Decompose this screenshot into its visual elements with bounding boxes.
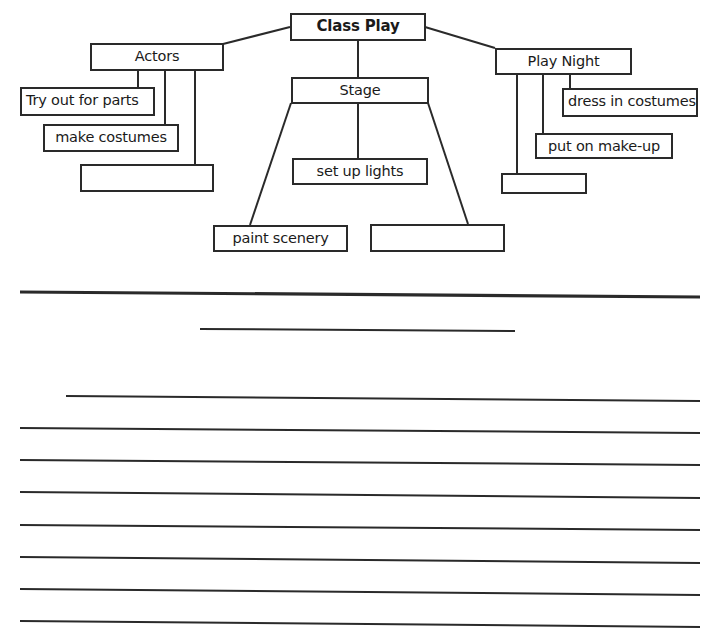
writing-lines [20, 292, 700, 627]
node-make-costumes: make costumes [43, 124, 179, 152]
connector-root-actors [223, 27, 290, 44]
writing-line-5 [20, 525, 700, 530]
node-stage-blank-answer[interactable] [370, 224, 505, 252]
connector-stage-scenery [250, 103, 291, 225]
writing-line-4 [20, 492, 700, 498]
node-label: Stage [340, 82, 381, 98]
node-put-on-make-up: put on make-up [535, 133, 673, 159]
node-play-night: Play Night [495, 48, 632, 75]
node-label: Class Play [317, 17, 400, 35]
worksheet-page: Class Play Actors Try out for parts make… [0, 0, 718, 642]
node-label: make costumes [55, 129, 167, 145]
node-dress-in-costumes: dress in costumes [562, 88, 698, 117]
writing-line-3 [20, 460, 700, 465]
node-paint-scenery: paint scenery [213, 225, 348, 252]
node-label: set up lights [317, 163, 404, 179]
node-label: paint scenery [232, 230, 328, 246]
node-label: Actors [135, 48, 180, 64]
writing-line-2 [20, 428, 700, 433]
node-label: Play Night [528, 53, 600, 69]
writing-line-1 [66, 396, 700, 401]
node-set-up-lights: set up lights [292, 158, 428, 185]
node-try-out-for-parts: Try out for parts [20, 87, 155, 116]
writing-line-7 [20, 589, 700, 595]
title-line [200, 329, 515, 331]
writing-line-6 [20, 557, 700, 563]
node-actors-blank-answer[interactable] [80, 164, 214, 192]
connector-stage-blank [428, 103, 468, 224]
connector-root-playnight [425, 27, 495, 48]
node-label: Try out for parts [26, 92, 139, 108]
node-play-night-blank-answer[interactable] [501, 173, 587, 194]
node-label: dress in costumes [568, 93, 696, 109]
node-label: put on make-up [548, 138, 660, 154]
writing-line-8 [20, 621, 700, 627]
node-stage: Stage [291, 77, 429, 104]
node-actors: Actors [90, 43, 224, 71]
node-class-play: Class Play [290, 13, 426, 41]
divider-line [20, 292, 700, 297]
